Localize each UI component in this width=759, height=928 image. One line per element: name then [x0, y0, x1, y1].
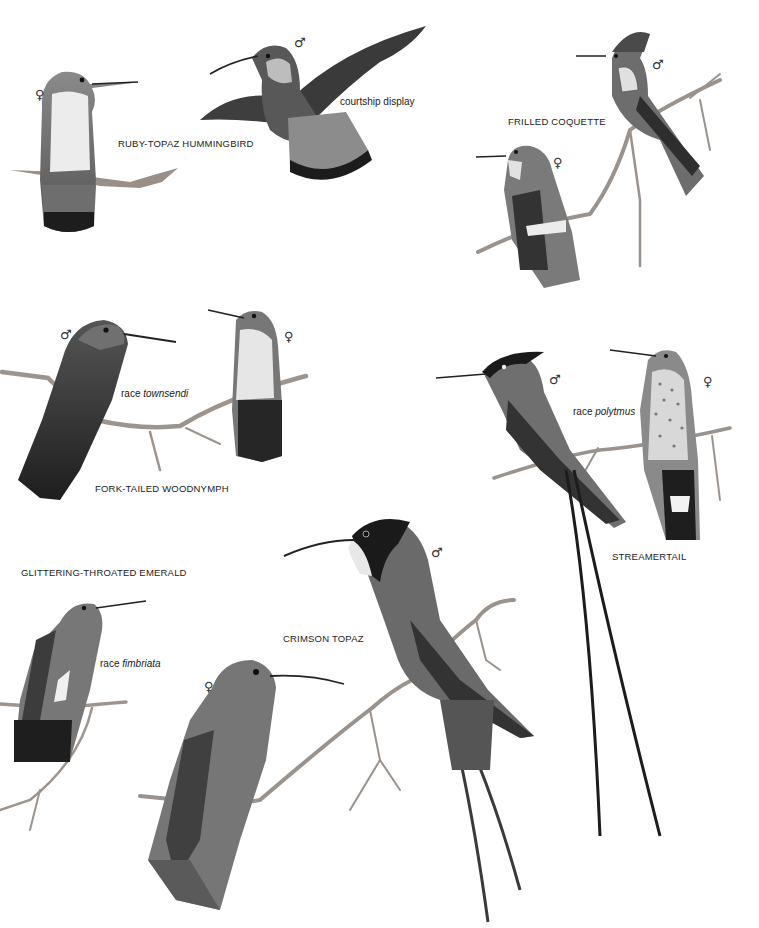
race-label-polytmus: race polytmus	[573, 406, 635, 417]
frilled-coquette-female-bird	[476, 146, 580, 288]
bird-illustrations	[0, 0, 759, 928]
male-symbol: ♂	[431, 546, 443, 559]
race-label-fimbriata: race fimbriata	[100, 658, 161, 669]
species-label-fork-tailed-woodnymph: FORK-TAILED WOODNYMPH	[95, 483, 229, 494]
male-symbol: ♂	[294, 36, 306, 49]
crimson-topaz-male-bird	[284, 519, 534, 922]
female-symbol: ♀	[35, 88, 45, 101]
streamertail-female-bird	[610, 350, 700, 540]
female-symbol: ♀	[284, 330, 294, 343]
female-symbol: ♀	[553, 156, 563, 169]
species-label-crimson-topaz: CRIMSON TOPAZ	[283, 633, 364, 644]
species-label-glittering-throated-emerald: GLITTERING-THROATED EMERALD	[21, 567, 187, 578]
male-symbol: ♂	[549, 373, 561, 386]
note-courtship-display: courtship display	[340, 96, 414, 107]
species-label-ruby-topaz: RUBY-TOPAZ HUMMINGBIRD	[118, 138, 254, 149]
female-symbol: ♀	[204, 680, 214, 693]
species-label-frilled-coquette: FRILLED COQUETTE	[508, 116, 606, 127]
male-symbol: ♂	[60, 328, 72, 341]
frilled-coquette-male-bird	[576, 32, 704, 196]
female-symbol: ♀	[703, 375, 713, 388]
species-label-streamertail: STREAMERTAIL	[612, 551, 686, 562]
crimson-topaz-female-bird	[148, 660, 344, 910]
woodnymph-female-bird	[208, 310, 282, 462]
male-symbol: ♂	[652, 58, 664, 71]
glittering-throated-emerald-bird	[14, 601, 146, 762]
illustration-plate: ♀ ♂ RUBY-TOPAZ HUMMINGBIRD courtship dis…	[0, 0, 759, 928]
woodnymph-male-bird	[18, 320, 176, 500]
race-label-townsendi: race townsendi	[121, 388, 188, 399]
